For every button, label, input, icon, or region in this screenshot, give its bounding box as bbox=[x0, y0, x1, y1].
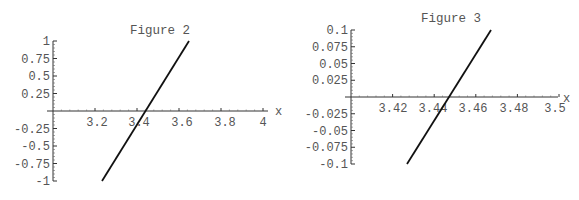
y-tick-label: -0.25 bbox=[14, 123, 50, 137]
figure-2-x-axis-label: x bbox=[275, 105, 282, 119]
figure-3-x-tick-labels: 3.42 3.44 3.46 3.48 3.5 bbox=[379, 102, 566, 116]
figure-2-title: Figure 2 bbox=[130, 24, 190, 38]
x-tick-label: 3.8 bbox=[214, 116, 236, 130]
figure-3-y-tick-labels: 0.1 0.075 0.05 0.025 -0.025 -0.05 -0.075… bbox=[305, 24, 348, 172]
y-tick-label: -0.1 bbox=[319, 158, 348, 172]
x-tick-label: 3.46 bbox=[459, 102, 488, 116]
figure-2: Figure 2 bbox=[14, 24, 282, 189]
y-tick-label: 0.075 bbox=[312, 41, 348, 55]
y-tick-label: -0.75 bbox=[14, 158, 50, 172]
figure-3-x-axis-label: x bbox=[563, 92, 570, 106]
y-tick-label: -0.025 bbox=[305, 108, 348, 122]
y-tick-label: -0.05 bbox=[312, 125, 348, 139]
figures-canvas: Figure 2 bbox=[0, 0, 579, 200]
y-tick-label: 0.025 bbox=[312, 74, 348, 88]
x-tick-label: 3.42 bbox=[379, 102, 408, 116]
y-tick-label: 0.5 bbox=[28, 70, 50, 84]
y-tick-label: 0.1 bbox=[326, 24, 348, 38]
y-tick-label: -1 bbox=[36, 175, 50, 189]
x-tick-label: 3.48 bbox=[500, 102, 529, 116]
figure-3-title: Figure 3 bbox=[421, 12, 481, 26]
y-tick-label: 0.25 bbox=[21, 88, 50, 102]
y-tick-label: 0.05 bbox=[319, 58, 348, 72]
y-tick-label: -0.075 bbox=[305, 141, 348, 155]
x-tick-label: 4 bbox=[259, 116, 266, 130]
figure-2-y-tick-labels: 1 0.75 0.5 0.25 -0.25 -0.5 -0.75 -1 bbox=[14, 35, 50, 189]
x-tick-label: 3.6 bbox=[171, 116, 193, 130]
y-tick-label: 1 bbox=[43, 35, 50, 49]
y-tick-label: -0.5 bbox=[21, 140, 50, 154]
figure-2-x-tick-labels: 3.2 3.4 3.6 3.8 4 bbox=[86, 116, 266, 130]
x-tick-label: 3.2 bbox=[86, 116, 108, 130]
y-tick-label: 0.75 bbox=[21, 53, 50, 67]
x-tick-label: 3.44 bbox=[419, 102, 448, 116]
figure-3: Figure 3 bbox=[305, 12, 570, 172]
